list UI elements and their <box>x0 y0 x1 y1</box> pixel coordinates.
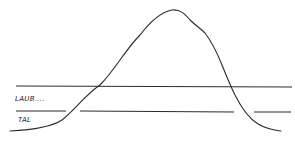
upper-boundary-line <box>16 86 292 87</box>
laub-zone-label: LAUB.... <box>15 95 45 103</box>
mountain-diagram <box>0 0 295 141</box>
tal-zone-label: TAL <box>18 116 31 124</box>
mountain-curve <box>10 10 281 131</box>
lower-boundary-line-middle <box>80 111 234 112</box>
